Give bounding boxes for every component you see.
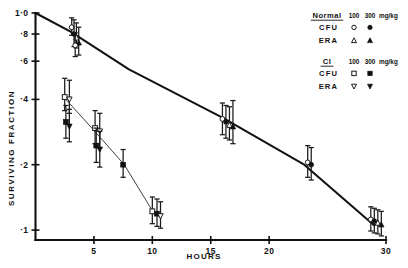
marker-open-circle [352,25,356,29]
legend-dose-unit: mg/kg [379,58,398,66]
legend-dose-100: 100 [349,12,360,19]
legend-row-label: ERA [319,82,338,91]
data-points-with-errorbars [62,18,384,236]
marker-filled-inverted-triangle [67,124,72,129]
legend-group-title: CI [323,57,332,66]
marker-open-circle [69,25,74,30]
legend-dose-300: 300 [365,58,376,65]
y-tick-label: ·6 [20,56,28,66]
x-axis-title: HOURS [187,252,222,261]
marker-filled-triangle [368,38,373,43]
marker-filled-inverted-triangle [97,147,102,152]
legend: Normal100300mg/kgCFUERACI100300mg/kgCFUE… [311,11,398,91]
x-tick-label: 10 [147,246,157,256]
y-tick-label: 1·0 [15,8,29,18]
y-tick-label: ·1 [20,225,28,235]
marker-filled-circle [368,25,372,29]
legend-dose-100: 100 [349,58,360,65]
y-axis-title: SURVIVING FRACTION [7,90,16,206]
legend-group-title: Normal [312,11,341,20]
chart-svg: 1·0·8·6·4·2·1 510152030 HOURS SURVIVING … [0,0,408,268]
marker-filled-square [368,71,372,75]
legend-dose-unit: mg/kg [379,12,398,20]
marker-filled-circle [224,120,229,125]
marker-open-square [352,71,356,75]
marker-open-circle [73,43,78,48]
marker-filled-inverted-triangle [368,84,373,89]
y-tick-label: ·4 [20,94,28,104]
marker-open-inverted-triangle [158,214,163,219]
x-tick-label: 5 [91,246,96,256]
survival-curve-figure: 1·0·8·6·4·2·1 510152030 HOURS SURVIVING … [0,0,408,268]
curve-ci [66,99,155,214]
marker-filled-square [121,162,126,167]
marker-open-inverted-triangle [352,84,357,89]
legend-row-label: ERA [319,36,338,45]
marker-open-triangle [352,38,357,43]
x-tick-label: 30 [381,246,391,256]
marker-open-square [150,209,155,214]
y-tick-label: ·8 [20,29,28,39]
legend-row-label: CFU [319,69,338,78]
marker-filled-square [63,120,68,125]
legend-row-label: CFU [319,23,338,32]
x-tick-label: 20 [264,246,274,256]
y-tick-label: ·2 [20,160,28,170]
legend-dose-300: 300 [365,12,376,19]
plot-axes [36,13,387,240]
marker-filled-circle [309,162,314,167]
